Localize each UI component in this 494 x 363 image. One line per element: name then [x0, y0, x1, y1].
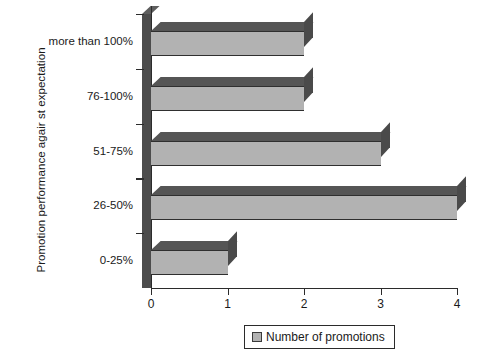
bar-side-face	[304, 67, 313, 102]
bar-side-face	[381, 122, 390, 157]
category-label-26-50: 26-50%	[0, 199, 133, 211]
value-label-0: 0	[136, 297, 166, 311]
value-label-1: 1	[213, 297, 243, 311]
legend-swatch-icon	[252, 332, 262, 342]
bar-side-face	[228, 232, 237, 267]
bar-front-face	[151, 86, 304, 111]
bar-top-face	[151, 241, 237, 250]
bar-front-face	[151, 31, 304, 56]
value-label-3: 3	[366, 297, 396, 311]
category-tick	[136, 124, 144, 125]
bar-row: 76-100%	[151, 69, 457, 124]
plot-area: more than 100% 76-100% 51-75% 26-50%	[151, 14, 457, 288]
bar-front-face	[151, 141, 381, 166]
value-tick-2	[304, 288, 305, 295]
bar-more-than-100[interactable]	[151, 31, 304, 56]
value-tick-0	[151, 288, 152, 295]
chart-legend[interactable]: Number of promotions	[244, 325, 395, 349]
bar-26-50[interactable]	[151, 195, 457, 220]
value-tick-1	[228, 288, 229, 295]
category-tick	[136, 178, 144, 179]
bar-row: more than 100%	[151, 14, 457, 69]
bar-row: 26-50%	[151, 178, 457, 233]
category-tick	[136, 233, 144, 234]
bar-0-25[interactable]	[151, 250, 228, 275]
bar-top-face	[151, 132, 390, 141]
category-label-more-than-100: more than 100%	[0, 35, 133, 47]
bar-row: 0-25%	[151, 233, 457, 288]
bar-top-face	[151, 77, 314, 86]
bar-side-face	[304, 12, 313, 47]
bar-76-100[interactable]	[151, 86, 304, 111]
bar-top-face	[151, 186, 467, 195]
bar-top-face	[151, 22, 314, 31]
bar-front-face	[151, 250, 228, 275]
value-tick-3	[381, 288, 382, 295]
category-tick	[136, 69, 144, 70]
bar-row: 51-75%	[151, 124, 457, 179]
value-tick-4	[457, 288, 458, 295]
value-label-4: 4	[442, 297, 472, 311]
bar-front-face	[151, 195, 457, 220]
bar-51-75[interactable]	[151, 141, 381, 166]
bar-side-face	[457, 177, 466, 212]
legend-label: Number of promotions	[266, 330, 385, 344]
category-label-0-25: 0-25%	[0, 254, 133, 266]
category-tick	[136, 14, 144, 15]
value-label-2: 2	[289, 297, 319, 311]
category-label-76-100: 76-100%	[0, 90, 133, 102]
axis-depth-wall	[142, 14, 151, 288]
category-label-51-75: 51-75%	[0, 145, 133, 157]
